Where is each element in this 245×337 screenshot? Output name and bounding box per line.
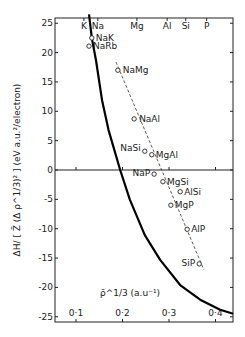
- dashed-fit-line: [116, 62, 204, 270]
- y-tick-label: -10: [38, 224, 53, 234]
- data-point-marker: [185, 227, 189, 231]
- x-tick-label: 0·1: [69, 308, 83, 318]
- y-tick-label: 15: [42, 77, 53, 87]
- y-tick-label: -20: [38, 282, 53, 292]
- data-point-label: NaAl: [139, 114, 160, 124]
- data-point-marker: [152, 172, 156, 176]
- y-tick-label: 20: [42, 48, 54, 58]
- element-label: Mg: [130, 21, 143, 31]
- element-label: Al: [163, 21, 172, 31]
- data-point-label: SiP: [182, 258, 196, 268]
- data-point-label: MgP: [175, 200, 194, 210]
- y-tick-label: 10: [42, 106, 54, 116]
- element-label: Si: [182, 21, 190, 31]
- x-tick-label: 0·3: [162, 308, 176, 318]
- data-point-label: MgAl: [156, 150, 178, 160]
- data-point-marker: [169, 203, 173, 207]
- solid-curve: [89, 14, 233, 313]
- data-point-label: NaRb: [93, 41, 118, 51]
- y-tick-label: 25: [42, 18, 53, 28]
- element-label: P: [204, 21, 210, 31]
- data-series: [89, 14, 233, 313]
- data-point-marker: [116, 68, 120, 72]
- element-label: K: [81, 21, 88, 31]
- element-label: Na: [92, 21, 104, 31]
- chart: 2520151050-5-10-15-20-25 0·10·20·30·4 KN…: [0, 0, 245, 337]
- y-axis-title: ΔH/ [ Z̄ (Δ ρ^1/3)² ] (eV a.u.²/electron…: [11, 84, 22, 257]
- top-element-labels: KNaMgAlSiP: [81, 18, 210, 31]
- data-point-marker: [143, 149, 147, 153]
- data-point-marker: [197, 262, 201, 266]
- y-tick-label: 5: [47, 136, 53, 146]
- data-point-label: AlP: [191, 224, 206, 234]
- data-point-label: NaP: [132, 168, 150, 178]
- y-tick-label: -5: [44, 194, 53, 204]
- data-point-marker: [150, 153, 154, 157]
- data-point-label: MgSi: [167, 177, 189, 187]
- x-axis-title: ρ̄^1/3 (a.u⁻¹): [100, 288, 160, 298]
- data-point-marker: [87, 44, 91, 48]
- y-tick-label: 0: [47, 165, 53, 175]
- y-tick-label: -15: [38, 253, 53, 263]
- data-point-label: NaMg: [123, 65, 149, 75]
- data-point-marker: [132, 117, 136, 121]
- data-point-label: AlSi: [184, 187, 201, 197]
- data-point-label: NaSi: [120, 143, 140, 153]
- y-tick-label: -25: [38, 312, 53, 322]
- data-point-marker: [90, 36, 94, 40]
- data-point-marker: [178, 190, 182, 194]
- data-point-marker: [161, 180, 165, 184]
- x-tick-label: 0·2: [115, 308, 129, 318]
